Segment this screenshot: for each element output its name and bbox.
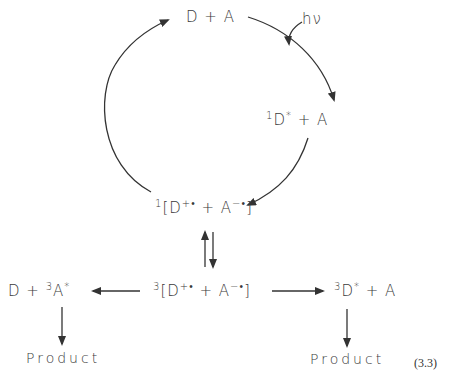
singlet-excited-label: 1D* + A (266, 110, 328, 129)
triplet-radical-ion-pair-label: 3[D+• + A−•] (153, 281, 251, 300)
reaction-arrows (0, 0, 455, 378)
ground-state-text: D + A (186, 8, 235, 26)
product-left-label: Product (26, 350, 100, 366)
rip-mid: + A (196, 199, 232, 217)
donor-plus-text: D + (8, 282, 46, 300)
photon-text: hν (302, 10, 322, 28)
singlet-radical-ion-pair-label: 1[D+• + A−•] (155, 198, 253, 217)
arc-electron-transfer (248, 138, 308, 205)
radical-cation: +• (180, 281, 194, 292)
donor-text: D (341, 282, 354, 300)
excited-star: * (64, 281, 70, 292)
acceptor-text: + A (360, 282, 396, 300)
rip-open: [D (160, 282, 179, 300)
radical-anion: −• (232, 198, 246, 209)
photon-arrow (289, 22, 302, 44)
acceptor-text: A (53, 282, 64, 300)
photon-label: hν (302, 10, 322, 28)
product-text: Product (26, 350, 100, 366)
rip-open: [D (162, 199, 181, 217)
product-right-label: Product (310, 351, 384, 367)
triplet-acceptor-label: D + 3A* (8, 281, 70, 300)
equation-number: (3.3) (414, 356, 437, 371)
rip-close: ] (246, 199, 253, 217)
donor-text: D (273, 111, 286, 129)
triplet-superscript: 3 (46, 281, 53, 292)
triplet-donor-label: 3D* + A (334, 281, 396, 300)
arc-excitation (248, 17, 334, 100)
ground-state-label: D + A (186, 8, 235, 26)
radical-anion: −• (230, 281, 244, 292)
product-text: Product (310, 351, 384, 367)
rip-mid: + A (194, 282, 230, 300)
arc-back-transfer (105, 20, 168, 192)
radical-cation: +• (182, 198, 196, 209)
rip-close: ] (244, 282, 251, 300)
acceptor-text: + A (292, 111, 328, 129)
